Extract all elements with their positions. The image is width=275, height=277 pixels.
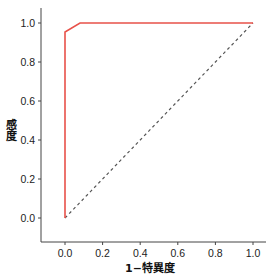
axes bbox=[41, 8, 266, 242]
x-tick-label: 0.0 bbox=[58, 247, 73, 259]
x-tick-label: 0.8 bbox=[208, 247, 223, 259]
y-tick-label: 1.0 bbox=[20, 17, 35, 29]
y-tick-label: 0.2 bbox=[20, 173, 35, 185]
y-tick-label: 0.6 bbox=[20, 95, 35, 107]
x-tick-label: 0.2 bbox=[95, 247, 110, 259]
y-tick-label: 0.8 bbox=[20, 56, 35, 68]
x-axis-title: 1−特異度 bbox=[125, 261, 176, 275]
y-tick-label: 0.4 bbox=[20, 134, 35, 146]
x-tick-label: 1.0 bbox=[246, 247, 261, 259]
x-ticks: 0.0 0.2 0.4 0.6 0.8 1.0 bbox=[58, 242, 261, 259]
y-axis-title: 感度 bbox=[4, 118, 18, 142]
y-ticks: 0.0 0.2 0.4 0.6 0.8 1.0 bbox=[20, 17, 41, 224]
reference-diagonal-line bbox=[65, 23, 253, 218]
roc-chart: 0.0 0.2 0.4 0.6 0.8 1.0 0.0 0.2 0.4 0.6 … bbox=[0, 0, 275, 277]
x-tick-label: 0.4 bbox=[133, 247, 148, 259]
y-tick-label: 0.0 bbox=[20, 212, 35, 224]
x-tick-label: 0.6 bbox=[170, 247, 185, 259]
